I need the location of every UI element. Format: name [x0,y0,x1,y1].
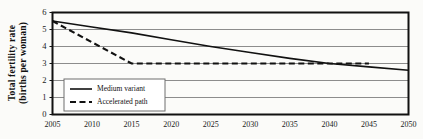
x-tick-label: 2035 [282,120,298,129]
x-tick-label: 2005 [45,120,61,129]
chart-container: Total fertility rate (births per woman) … [0,0,423,139]
y-tick-label: 1 [42,92,46,102]
x-tick-label: 2015 [124,120,140,129]
x-tick-label: 2030 [242,120,258,129]
y-tick-labels-group: 0123456 [42,7,52,119]
line-chart-plot: 0123456 20052010201520202025203020352040… [0,0,423,139]
data-series-group [53,21,409,70]
y-tick-label: 6 [42,7,46,17]
x-tick-label: 2020 [163,120,179,129]
chart-legend: Medium variantAccelerated path [64,79,165,111]
y-tick-label: 5 [42,24,46,34]
y-tick-label: 2 [42,75,46,85]
x-tick-label: 2045 [361,120,377,129]
legend-label-0: Medium variant [97,84,146,93]
x-tick-labels-group: 2005201020152020202520302035204020452050 [45,120,417,129]
y-tick-label: 4 [42,41,47,51]
series-line-0 [53,21,409,70]
y-tick-label: 0 [42,109,46,119]
x-tick-label: 2025 [203,120,219,129]
x-tick-label: 2050 [401,120,417,129]
x-tick-label: 2010 [84,120,100,129]
legend-label-1: Accelerated path [97,97,148,106]
x-tick-label: 2040 [321,120,337,129]
y-tick-label: 3 [42,58,46,68]
